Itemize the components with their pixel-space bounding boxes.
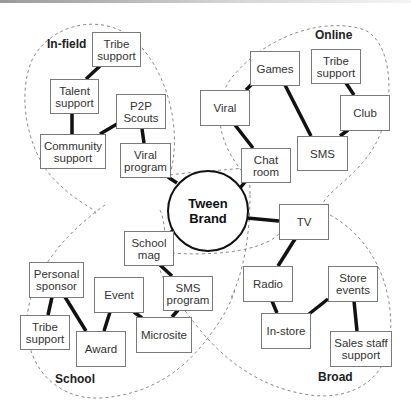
edge (309, 299, 328, 314)
node-award[interactable]: Award (76, 331, 126, 367)
node-tv[interactable]: TV (279, 204, 329, 240)
diagram-canvas: In-field Online School Broad Tween Brand… (0, 0, 411, 418)
node-personal-sponsor[interactable]: Personal sponsor (29, 262, 84, 298)
node-talent-support[interactable]: Talent support (50, 79, 99, 114)
node-p2p-scouts[interactable]: P2P Scouts (116, 94, 166, 129)
node-online-tribe-support[interactable]: Tribe support (311, 49, 361, 84)
edge (346, 83, 354, 95)
node-viral[interactable]: Viral (200, 90, 250, 126)
group-label-broad: Broad (318, 370, 353, 384)
node-viral-program[interactable]: Viral program (120, 143, 171, 178)
node-radio[interactable]: Radio (243, 266, 293, 302)
group-label-school: School (55, 372, 95, 386)
node-store-events[interactable]: Store events (328, 266, 378, 302)
edge (48, 297, 52, 315)
node-games[interactable]: Games (250, 51, 300, 86)
edge (86, 66, 100, 79)
node-in-store[interactable]: In-store (261, 313, 311, 349)
edge (100, 124, 117, 134)
node-chat-room[interactable]: Chat room (241, 148, 291, 183)
node-sms[interactable]: SMS (297, 136, 348, 171)
node-community-support[interactable]: Community support (40, 134, 106, 169)
edge (285, 85, 311, 136)
edge (104, 312, 110, 331)
node-school-tribe-support[interactable]: Tribe support (20, 315, 70, 350)
edge (235, 125, 253, 148)
node-school-mag[interactable]: School mag (124, 231, 174, 266)
group-label-online: Online (315, 28, 352, 42)
edge (354, 301, 357, 331)
edge (172, 310, 178, 317)
edge (278, 239, 295, 266)
edge (160, 265, 172, 276)
node-infield-tribe-support[interactable]: Tribe support (92, 32, 141, 67)
node-event[interactable]: Event (94, 277, 144, 313)
node-sales-staff-support[interactable]: Sales staff support (330, 331, 392, 367)
edge (272, 301, 277, 313)
node-sms-program[interactable]: SMS program (163, 276, 213, 311)
node-microsite[interactable]: Microsite (136, 317, 192, 353)
tween-brand-hub[interactable]: Tween Brand (167, 170, 249, 252)
group-label-in-field: In-field (47, 37, 86, 51)
edge (247, 218, 279, 221)
edge (142, 129, 144, 143)
node-club[interactable]: Club (340, 95, 390, 131)
